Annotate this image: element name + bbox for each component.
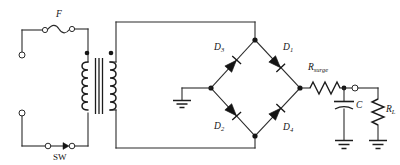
- diode-d4-label: D4: [282, 122, 294, 133]
- capacitor-label: C: [356, 100, 363, 110]
- fuse-label: F: [55, 9, 62, 19]
- diode-d2-label: D2: [213, 121, 225, 132]
- circuit-diagram: F SW: [0, 0, 400, 165]
- fuse: [42, 25, 74, 33]
- ground-bridge: [173, 101, 191, 108]
- diode-d3-label: D3: [213, 42, 225, 53]
- filter-capacitor: [334, 102, 354, 141]
- surge-resistor: [310, 82, 340, 94]
- switch: [45, 143, 75, 150]
- transformer: [82, 22, 116, 148]
- ground-load: [369, 141, 387, 149]
- switch-label: SW: [53, 152, 67, 162]
- diode-d1-label: D1: [282, 42, 293, 53]
- ground-capacitor: [335, 141, 353, 149]
- input-terminal-top: [19, 30, 25, 58]
- bridge-node-top: [252, 37, 257, 42]
- load-resistor: [372, 99, 384, 125]
- surge-resistor-label: Rsurge: [307, 62, 328, 73]
- bridge-node-right: [297, 85, 302, 90]
- load-resistor-label: RL: [385, 104, 396, 115]
- bridge-node-bottom: [252, 133, 257, 138]
- input-terminal-bottom: [19, 110, 25, 146]
- polarity-dot-primary: [85, 51, 90, 56]
- circuit-canvas: F SW: [0, 0, 400, 165]
- polarity-dot-secondary: [109, 51, 114, 56]
- transformer-core: [96, 58, 103, 114]
- output-terminal: [352, 85, 358, 91]
